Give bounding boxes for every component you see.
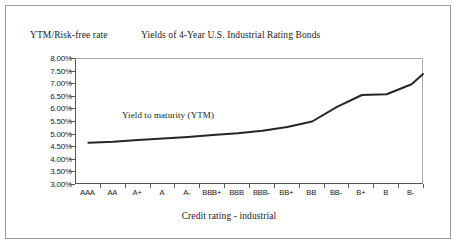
x-axis-title: Credit rating - industrial [6,211,452,221]
y-axis-tick-label: 6.00% [30,104,72,113]
y-axis-tick-label: 5.00% [30,129,72,138]
y-axis-tick-label: 4.50% [30,142,72,151]
y-axis-tick-label: 6.50% [30,91,72,100]
plot-area [75,58,423,184]
series-line-svg [76,59,424,185]
y-axis-tick-label: 7.50% [30,66,72,75]
y-axis-tick-labels: 8.00%7.50%7.00%6.50%6.00%5.50%5.00%4.50%… [28,58,72,184]
x-axis-tick-labels: AAAAAA+AA-BBB+BBBBBB-BB+BBBB-B+BB- [75,188,423,202]
y-axis-tick-label: 4.00% [30,154,72,163]
series-annotation-label: Yield to maturity (YTM) [122,110,214,120]
y-axis-tick-label: 3.50% [30,167,72,176]
y-axis-tick-label: 8.00% [30,54,72,63]
y-axis-tick-label: 5.50% [30,117,72,126]
x-axis-tick-label: B- [391,188,431,197]
figure-frame: YTM/Risk-free rate Yields of 4-Year U.S.… [5,5,451,239]
y-axis-tick-label: 7.00% [30,79,72,88]
ytm-series-line [88,74,423,143]
chart-root: YTM/Risk-free rate Yields of 4-Year U.S.… [6,6,452,240]
y-axis-title: YTM/Risk-free rate [30,30,108,40]
y-axis-tick-label: 3.00% [30,180,72,189]
chart-title: Yields of 4-Year U.S. Industrial Rating … [141,30,320,40]
